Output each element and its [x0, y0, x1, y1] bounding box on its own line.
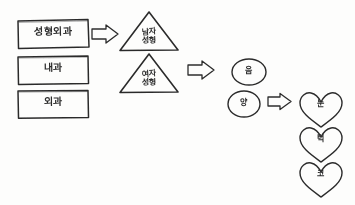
heart-chin-outline: [300, 128, 342, 162]
heart-eye-label: 눈: [311, 100, 331, 108]
arrow-box-to-triangle-icon: [92, 25, 118, 43]
arrow-triangle-to-ellipse-icon: [188, 61, 214, 79]
ellipse-yin-label: 음: [239, 67, 259, 75]
heart-nose-label: 코: [311, 170, 331, 178]
ellipse-yang-label: 양: [234, 99, 254, 107]
arrow-ellipse-to-heart-icon: [268, 94, 291, 110]
heart-chin-label: 턱: [311, 135, 331, 143]
sketch-canvas: 성형외과 내과 외과 남자 성형 여자 성형 음 양 눈 턱 코: [0, 0, 355, 205]
heart-eye-outline: [300, 93, 342, 127]
box-plastic-surgery-label: 성형외과: [17, 26, 89, 38]
box-surgery-label: 외과: [17, 97, 89, 108]
box-internal-medicine-label: 내과: [17, 62, 89, 74]
heart-nose-outline: [300, 163, 342, 197]
